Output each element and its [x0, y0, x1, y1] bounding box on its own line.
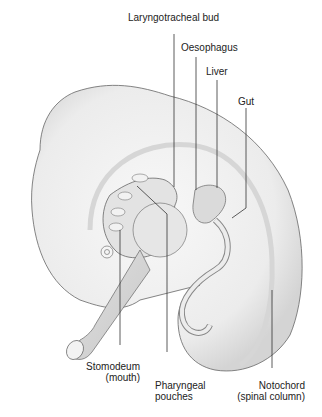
label-laryngotracheal-bud: Laryngotracheal bud: [128, 12, 219, 23]
label-liver: Liver: [206, 66, 228, 77]
label-stomodeum: Stomodeum (mouth): [62, 361, 140, 383]
label-pharyngeal-pouches: Pharyngeal pouches: [155, 380, 206, 402]
label-notochord: Notochord (spinal column): [228, 380, 305, 402]
label-oesophagus: Oesophagus: [181, 42, 238, 53]
embryo-illustration: [0, 0, 322, 417]
label-gut: Gut: [238, 96, 254, 107]
